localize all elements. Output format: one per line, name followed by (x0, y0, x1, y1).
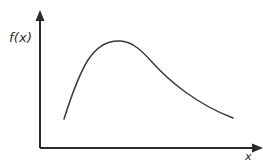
function-curve (64, 41, 233, 119)
plot-canvas (0, 0, 274, 166)
x-axis-label: x (245, 151, 252, 162)
y-axis-label: f(x) (9, 31, 32, 44)
y-axis-arrow-icon (36, 10, 45, 21)
function-plot-figure: f(x) x (0, 0, 274, 166)
x-axis-arrow-icon (252, 144, 263, 153)
